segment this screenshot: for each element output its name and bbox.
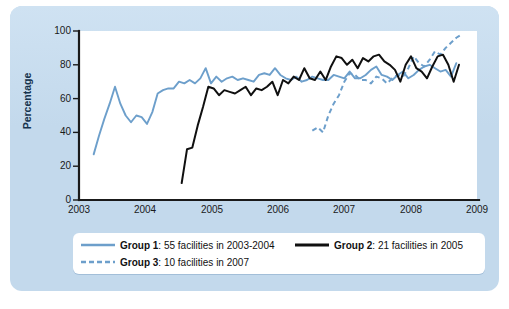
legend-rest-group-1: : 55 facilities in 2003-2004 <box>158 240 274 251</box>
legend-rest-group-2: : 21 facilities in 2005 <box>372 240 463 251</box>
series-line-group-2 <box>182 55 459 183</box>
solid-blue-line-swatch <box>81 239 115 251</box>
legend-bold-group-1: Group 1 <box>120 240 158 251</box>
axis-group <box>73 31 479 200</box>
chart-figure: Percentage 100 80 60 40 20 0 2003 2004 2… <box>0 0 509 309</box>
data-series-group <box>94 34 462 183</box>
legend-label-group-2: Group 2: 21 facilities in 2005 <box>334 240 463 251</box>
legend-item-group-3: Group 3: 10 facilities in 2007 <box>81 254 249 270</box>
legend-item-group-2: Group 2: 21 facilities in 2005 <box>295 237 463 253</box>
legend-rest-group-3: : 10 facilities in 2007 <box>158 257 249 268</box>
solid-black-line-swatch <box>295 239 329 251</box>
legend-label-group-3: Group 3: 10 facilities in 2007 <box>120 257 249 268</box>
chart-legend: Group 1: 55 facilities in 2003-2004 Grou… <box>73 233 485 274</box>
legend-bold-group-3: Group 3 <box>120 257 158 268</box>
legend-label-group-1: Group 1: 55 facilities in 2003-2004 <box>120 240 275 251</box>
legend-bold-group-2: Group 2 <box>334 240 372 251</box>
legend-item-group-1: Group 1: 55 facilities in 2003-2004 <box>81 237 275 253</box>
series-line-group-3 <box>312 34 461 132</box>
dashed-blue-line-swatch <box>81 256 115 268</box>
